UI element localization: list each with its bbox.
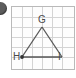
filled-circle-bullet-icon (0, 2, 7, 15)
grid-panel: G H I (11, 6, 75, 70)
edge-H-G (22, 27, 42, 57)
vertex-marker-H (20, 55, 24, 59)
vertex-label-g: G (38, 15, 46, 25)
vertex-label-i: I (58, 52, 61, 62)
vertex-label-h: H (13, 52, 20, 62)
geometry-diagram-screenshot: G H I (0, 0, 76, 78)
